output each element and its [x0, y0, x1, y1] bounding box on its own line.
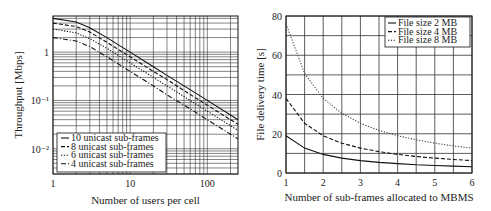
x-tick-label: 1 — [51, 178, 56, 189]
x-tick-label: 4 — [395, 177, 400, 188]
x-tick-label: 100 — [200, 178, 215, 189]
series-line-3 — [53, 38, 238, 139]
series-line-0 — [53, 18, 238, 119]
y-tick-label: 10⁻¹ — [31, 95, 49, 106]
x-tick-label: 10 — [125, 178, 135, 189]
y-axis-label: File delivery time [s] — [254, 48, 266, 141]
x-tick-label: 6 — [470, 177, 475, 188]
y-axis-label: Throughput [Mbps] — [12, 51, 24, 138]
legend-item: 4 unicast sub-frames — [71, 158, 154, 169]
x-tick-label: 3 — [358, 177, 363, 188]
y-tick-label: 20 — [272, 129, 282, 140]
legend: 10 unicast sub-frames8 unicast sub-frame… — [57, 132, 166, 172]
y-tick-label: 40 — [272, 90, 282, 101]
file-delivery-chart: 123456020406080Number of sub-frames allo… — [254, 11, 475, 203]
x-tick-label: 2 — [321, 177, 326, 188]
series-line-1 — [53, 23, 238, 124]
x-axis-label: Number of users per cell — [91, 194, 200, 206]
y-tick-label: 0 — [277, 168, 282, 179]
y-tick-label: 10⁻² — [31, 144, 49, 155]
y-tick-label: 60 — [272, 50, 282, 61]
throughput-chart: 11010010⁻²10⁻¹1Number of users per cellT… — [12, 16, 238, 206]
figure: 11010010⁻²10⁻¹1Number of users per cellT… — [0, 0, 491, 211]
x-tick-label: 5 — [432, 177, 437, 188]
y-tick-label: 80 — [272, 11, 282, 22]
x-tick-label: 1 — [284, 177, 289, 188]
x-axis-label: Number of sub-frames allocated to MBMS — [284, 191, 473, 203]
legend: File size 2 MBFile size 4 MBFile size 8 … — [385, 17, 470, 47]
legend-item: File size 8 MB — [398, 34, 457, 45]
y-tick-label: 1 — [44, 47, 49, 58]
